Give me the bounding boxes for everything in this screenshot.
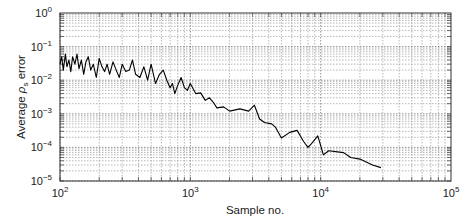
svg-text:10−2: 10−2 bbox=[31, 72, 53, 86]
svg-text:103: 103 bbox=[182, 185, 199, 199]
svg-text:10−1: 10−1 bbox=[31, 39, 53, 53]
svg-text:105: 105 bbox=[443, 185, 460, 199]
x-axis-label: Sample no. bbox=[226, 204, 284, 216]
y-axis-label: Average ρs error bbox=[15, 55, 30, 139]
plot-area-border bbox=[60, 13, 451, 181]
svg-text:102: 102 bbox=[52, 185, 69, 199]
y-axis-tick-labels: 10010−110−210−310−410−5 bbox=[31, 5, 53, 187]
x-axis-tick-labels: 102103104105 bbox=[52, 185, 460, 199]
chart: 10010−110−210−310−410−5 102103104105 Sam… bbox=[0, 0, 473, 223]
gridlines bbox=[60, 13, 451, 181]
svg-text:10−4: 10−4 bbox=[31, 139, 53, 153]
svg-text:10−5: 10−5 bbox=[31, 173, 53, 187]
svg-text:104: 104 bbox=[312, 185, 329, 199]
svg-text:100: 100 bbox=[35, 5, 52, 19]
svg-text:10−3: 10−3 bbox=[31, 106, 53, 120]
